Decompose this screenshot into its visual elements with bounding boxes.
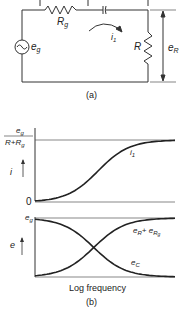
y-top-label-eg: eg — [25, 213, 33, 223]
curve-ec — [35, 219, 175, 276]
y-zero-label: 0 — [26, 196, 32, 207]
diagram-canvas: Rg eg i1 R eR (a) eg R+Rg i 0 i1 eg e eR… — [0, 0, 189, 317]
curve-i1 — [35, 140, 175, 201]
arrowhead — [161, 11, 165, 17]
caption-a: (a) — [86, 90, 97, 100]
resistor-rg — [45, 6, 76, 14]
current-chart — [21, 128, 175, 202]
er-label: eR — [168, 42, 179, 54]
arrowhead — [20, 237, 24, 242]
capacitor-plate — [105, 6, 106, 14]
rg-label: Rg — [57, 16, 68, 29]
y-top-denominator: R+Rg — [5, 138, 25, 148]
resistor-r — [144, 32, 152, 64]
current-arrow — [89, 24, 120, 31]
label-er-plus-erg: eR+ eRg — [133, 226, 160, 237]
arrowhead — [161, 75, 165, 81]
y-top-numerator: eg — [16, 126, 24, 136]
x-axis-label: Log frequency — [69, 283, 127, 293]
label-ec: eC — [131, 258, 140, 268]
r-label: R — [134, 41, 141, 52]
curve-er-plus-erg — [35, 218, 175, 275]
y-axis-label-i: i — [10, 167, 13, 177]
circuit — [15, 0, 176, 82]
source-label: eg — [31, 41, 41, 54]
arrowhead — [21, 159, 25, 164]
caption-b: (b) — [86, 297, 97, 307]
label-i1: i1 — [130, 148, 135, 158]
current-label: i1 — [111, 32, 116, 43]
y-axis-label-e: e — [10, 240, 15, 250]
